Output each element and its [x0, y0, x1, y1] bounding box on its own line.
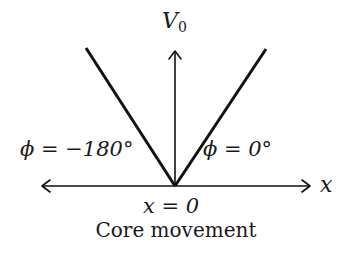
phi-minus-180-label: ϕ = −180°	[20, 137, 133, 161]
core-movement-diagram: V0 ϕ = −180° ϕ = 0° x x = 0 Core movemen…	[0, 0, 352, 254]
origin-label: x = 0	[143, 194, 199, 218]
v0-axis-label: V0	[162, 8, 187, 33]
diagram-caption: Core movement	[0, 218, 352, 242]
x-axis-label: x	[320, 172, 332, 197]
phi-0-label: ϕ = 0°	[203, 137, 272, 161]
branch-left-line	[86, 48, 175, 186]
branch-right-line	[175, 49, 266, 186]
